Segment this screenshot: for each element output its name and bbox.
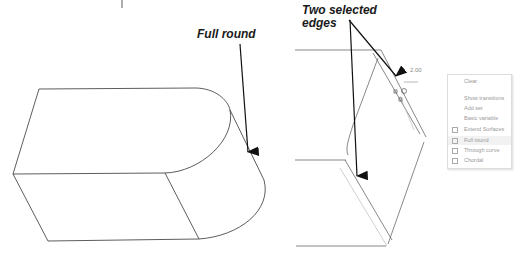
menu-item-label: Basic variable — [464, 115, 498, 121]
checkbox-icon[interactable] — [452, 127, 458, 133]
context-menu: Clear Show transitions Add set Basic var… — [447, 74, 512, 169]
full-round-label: Full round — [197, 28, 256, 41]
menu-item-basic-variable[interactable]: Basic variable — [448, 114, 511, 123]
dimension-value: 2.00 — [410, 67, 422, 73]
edges-label: edges — [302, 17, 337, 30]
menu-item-label: Clear — [464, 78, 477, 84]
menu-item-label: Extend Surfaces — [464, 126, 504, 132]
menu-item-clear[interactable]: Clear — [448, 77, 511, 86]
menu-item-show-transitions[interactable]: Show transitions — [448, 94, 511, 103]
menu-item-label: Chordal — [464, 157, 483, 163]
menu-item-extend-surfaces[interactable]: Extend Surfaces — [448, 125, 511, 134]
selected-edge-arrow-1 — [349, 20, 396, 76]
drawing-canvas — [0, 0, 524, 256]
checkbox-icon[interactable] — [452, 148, 458, 154]
menu-item-chordal[interactable]: Chordal — [448, 156, 511, 165]
checkbox-icon[interactable] — [452, 138, 458, 144]
side-view — [295, 50, 426, 246]
selected-edge-arrow-2 — [350, 20, 357, 176]
menu-item-label: Show transitions — [464, 95, 504, 101]
menu-item-full-round[interactable]: Full round — [448, 136, 511, 145]
menu-item-label: Add set — [464, 105, 483, 111]
checkbox-icon[interactable] — [452, 158, 458, 164]
menu-item-label: Through curve — [464, 147, 499, 153]
menu-item-add-set[interactable]: Add set — [448, 104, 511, 113]
full-round-arrow — [240, 44, 248, 152]
menu-item-through-curve[interactable]: Through curve — [448, 146, 511, 155]
menu-item-label: Full round — [464, 137, 488, 143]
